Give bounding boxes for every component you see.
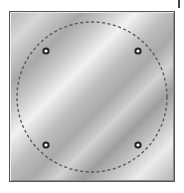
plate-overlay <box>0 0 184 193</box>
mounting-holes <box>42 47 141 148</box>
hole-center <box>44 143 47 146</box>
hole-center <box>136 49 139 52</box>
image-stage <box>0 0 184 193</box>
hole-center <box>136 143 139 146</box>
dashed-guide-circle <box>17 22 167 172</box>
hole-center <box>44 49 47 52</box>
